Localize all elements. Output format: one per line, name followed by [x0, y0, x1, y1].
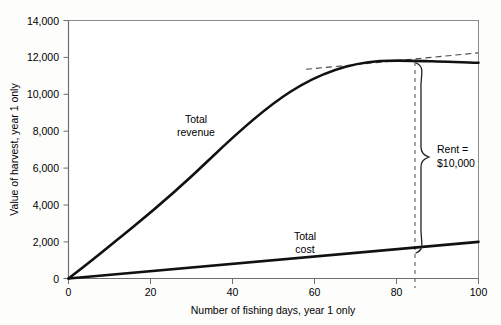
y-tick-label: 14,000 [27, 15, 59, 27]
y-tick-label: 8,000 [33, 125, 59, 137]
y-tick-label: 4,000 [33, 199, 59, 211]
y-tick-label: 2,000 [33, 236, 59, 248]
x-tick-label: 80 [391, 286, 403, 298]
x-axis-title: Number of fishing days, year 1 only [191, 304, 356, 316]
y-axis-tick-labels: 14,000 12,000 10,000 8,000 6,000 4,000 2… [27, 15, 59, 285]
y-tick-label: 0 [53, 273, 59, 285]
rent-label-line2: $10,000 [437, 157, 475, 169]
y-tick-label: 12,000 [27, 51, 59, 63]
x-tick-label: 20 [145, 286, 157, 298]
x-axis-ticks [69, 279, 479, 285]
y-axis-ticks [64, 21, 69, 279]
total-revenue-label-line2: revenue [177, 126, 215, 138]
total-cost-label-line1: Total [294, 230, 316, 242]
rent-label-line1: Rent = [437, 143, 468, 155]
x-tick-label: 40 [227, 286, 239, 298]
y-tick-label: 10,000 [27, 88, 59, 100]
total-cost-label-line2: cost [295, 243, 314, 255]
x-tick-label: 0 [66, 286, 72, 298]
y-tick-label: 6,000 [33, 162, 59, 174]
revenue-cost-chart: 14,000 12,000 10,000 8,000 6,000 4,000 2… [0, 0, 501, 325]
x-axis-tick-labels: 0 20 40 60 80 100 [66, 286, 488, 298]
x-tick-label: 100 [470, 286, 488, 298]
x-tick-label: 60 [309, 286, 321, 298]
total-revenue-label-line1: Total [185, 113, 207, 125]
chart-figure: 14,000 12,000 10,000 8,000 6,000 4,000 2… [0, 0, 501, 325]
y-axis-title: Value of harvest, year 1 only [8, 83, 20, 216]
